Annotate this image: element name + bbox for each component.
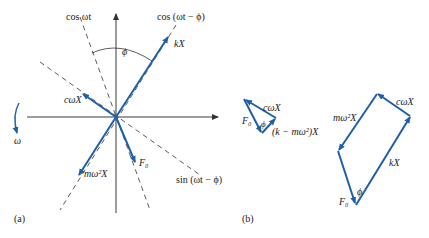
- para-mw2X-label: mω²X: [333, 112, 357, 123]
- mw2X-vector: [79, 117, 116, 175]
- mw2X-label-a: mω²X: [84, 168, 108, 179]
- cos-wt-line: [80, 17, 150, 210]
- panel-a: cos ωt cos (ωt − ϕ) ϕ kX cωX mω²X F₀ sin…: [14, 11, 222, 225]
- cwX-vector: [83, 94, 116, 117]
- vector-diagram: cos ωt cos (ωt − ϕ) ϕ kX cωX mω²X F₀ sin…: [0, 0, 429, 238]
- cwX-label-a: cωX: [64, 94, 82, 105]
- caption-a: (a): [14, 213, 25, 225]
- panel-b: cωX F₀ ϕ (k − mω²)X cωX mω²X kX ϕ F₀ (b): [241, 94, 414, 225]
- cos-wt-label: cos ωt: [66, 11, 91, 22]
- para-phi-label: ϕ: [357, 186, 362, 197]
- tri-k-mw2X-label: (k − mω²)X: [272, 126, 319, 138]
- F0-vector: [116, 117, 135, 162]
- force-triangle: cωX F₀ ϕ (k − mω²)X: [241, 99, 319, 138]
- sin-wt-phi-line: [40, 62, 200, 175]
- caption-b: (b): [242, 213, 254, 225]
- sin-wt-phi-label: sin (ωt − ϕ): [176, 174, 222, 186]
- kX-label-a: kX: [174, 38, 185, 49]
- omega-rotation-arrow: [15, 103, 19, 133]
- tri-F0-label: F₀: [241, 115, 252, 126]
- omega-label: ω: [14, 135, 21, 146]
- force-parallelogram: cωX mω²X kX ϕ F₀: [333, 94, 414, 207]
- F0-label-a: F₀: [138, 157, 149, 168]
- tri-cwX-label: cωX: [263, 102, 281, 113]
- para-kX-label: kX: [389, 157, 400, 168]
- tri-phi-label: ϕ: [261, 119, 266, 129]
- cos-wt-phi-label: cos (ωt − ϕ): [157, 11, 205, 23]
- para-cwX-label: cωX: [396, 96, 414, 107]
- para-F0-label: F₀: [338, 196, 349, 207]
- para-kX-vector: [356, 117, 410, 205]
- phi-label-a: ϕ: [122, 46, 127, 57]
